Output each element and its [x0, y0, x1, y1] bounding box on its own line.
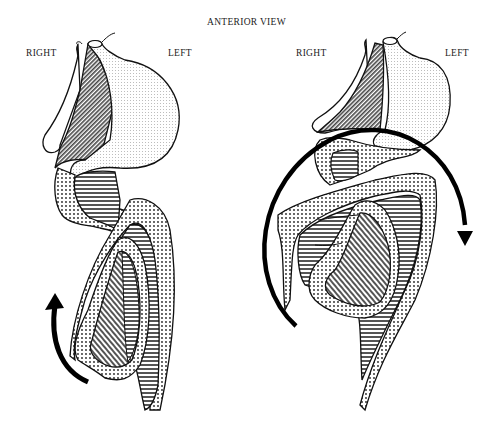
right-panel-drawing: [264, 32, 473, 410]
arrowhead-down-icon: [457, 231, 473, 246]
arrowhead-icon: [45, 293, 64, 310]
anatomy-illustration: [0, 0, 493, 428]
left-panel-drawing: [43, 33, 179, 410]
